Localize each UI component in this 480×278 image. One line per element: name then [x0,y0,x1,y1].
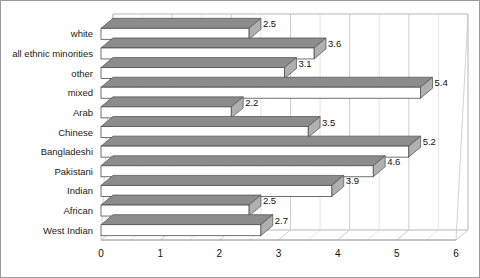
bar [101,77,433,98]
bar [101,215,273,236]
x-tick-label: 1 [150,248,170,259]
x-tick-label: 0 [91,248,111,259]
data-label: 4.6 [387,157,400,167]
data-label: 2.5 [263,19,276,29]
bar [101,117,320,138]
data-label: 3.1 [298,59,311,69]
data-label: 3.5 [322,118,335,128]
category-label: Bangladeshi [41,147,93,157]
bar [101,38,326,59]
bar [101,18,261,39]
bar [101,58,296,79]
category-label: all ethnic minorities [12,49,93,59]
category-label: mixed [68,88,93,98]
data-label: 3.6 [328,39,341,49]
bar [101,156,385,177]
category-label: Chinese [58,128,93,138]
bar [101,136,421,157]
category-axis-labels: whiteall ethnic minoritiesothermixedArab… [1,14,97,240]
x-tick-label: 4 [328,248,348,259]
data-label: 5.4 [435,78,448,88]
data-label: 5.2 [423,137,436,147]
category-label: West Indian [43,226,93,236]
data-label: 2.5 [263,196,276,206]
category-label: Indian [67,186,93,196]
x-tick-label: 5 [387,248,407,259]
x-tick-label: 6 [446,248,466,259]
bar [101,195,261,216]
data-label: 2.7 [275,216,288,226]
category-label: Pakistani [54,167,93,177]
category-label: white [71,29,93,39]
x-tick-label: 2 [209,248,229,259]
bar [101,175,344,196]
bar [101,97,243,118]
category-label: other [71,69,93,79]
data-label: 3.9 [346,176,359,186]
category-label: African [63,206,93,216]
data-label: 2.2 [245,98,258,108]
x-tick-label: 3 [269,248,289,259]
category-label: Arab [73,108,93,118]
chart-figure: whiteall ethnic minoritiesothermixedArab… [0,0,480,278]
